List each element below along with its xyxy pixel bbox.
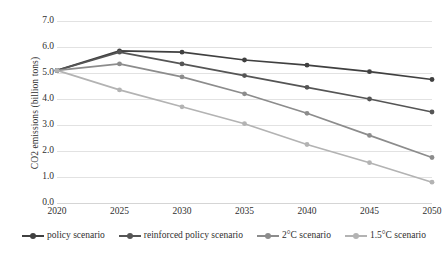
data-point [180, 104, 185, 109]
y-tick-label: 4.0 [42, 94, 54, 104]
data-point [305, 85, 310, 90]
series-1-5-c-scenario [55, 68, 435, 185]
data-point [180, 50, 185, 55]
data-point [367, 97, 372, 102]
y-tick-label: 3.0 [42, 120, 54, 130]
data-point [180, 75, 185, 80]
legend-item[interactable]: reinforced policy scenario [119, 230, 243, 241]
legend-label: 1.5°C scenario [370, 230, 426, 241]
legend-item[interactable]: 2°C scenario [257, 230, 331, 241]
series-lines [57, 21, 432, 203]
y-tick-label: 5.0 [42, 68, 54, 78]
data-point [242, 58, 247, 63]
data-point [430, 110, 435, 115]
y-tick-label: 7.0 [42, 16, 54, 26]
data-point [430, 77, 435, 82]
legend-label: 2°C scenario [282, 230, 331, 241]
data-point [180, 62, 185, 67]
x-tick-label: 2030 [173, 206, 192, 217]
gridline [57, 203, 432, 204]
data-point [305, 111, 310, 116]
y-tick-label: 2.0 [42, 146, 54, 156]
legend-marker-icon [345, 231, 367, 240]
data-point [367, 160, 372, 165]
chart-container: CO2 emissions (billion tons) 0.01.02.03.… [0, 0, 448, 262]
x-tick-label: 2045 [360, 206, 379, 217]
series-line [57, 70, 432, 182]
x-tick-label: 2025 [110, 206, 129, 217]
x-tick-label: 2035 [235, 206, 254, 217]
plot-area [57, 21, 432, 203]
legend-item[interactable]: 1.5°C scenario [345, 230, 426, 241]
data-point [242, 121, 247, 126]
legend-marker-icon [22, 231, 44, 240]
y-tick-label: 6.0 [42, 42, 54, 52]
data-point [55, 68, 60, 73]
data-point [305, 63, 310, 68]
x-tick-label: 2040 [298, 206, 317, 217]
legend-label: reinforced policy scenario [144, 230, 243, 241]
legend-marker-icon [119, 231, 141, 240]
x-tick-label: 2050 [423, 206, 442, 217]
x-axis-tick-labels: 2020202520302035204020452050 [57, 206, 432, 222]
data-point [117, 50, 122, 55]
legend-label: policy scenario [47, 230, 105, 241]
data-point [242, 91, 247, 96]
data-point [430, 155, 435, 160]
data-point [367, 69, 372, 74]
data-point [305, 142, 310, 147]
data-point [117, 62, 122, 67]
data-point [367, 133, 372, 138]
y-tick-label: 1.0 [42, 172, 54, 182]
legend-item[interactable]: policy scenario [22, 230, 105, 241]
chart-legend: policy scenarioreinforced policy scenari… [0, 230, 448, 241]
data-point [242, 73, 247, 78]
data-point [117, 88, 122, 93]
legend-marker-icon [257, 231, 279, 240]
y-axis-tick-labels: 0.01.02.03.04.05.06.07.0 [24, 0, 54, 262]
data-point [430, 180, 435, 185]
x-tick-label: 2020 [48, 206, 67, 217]
